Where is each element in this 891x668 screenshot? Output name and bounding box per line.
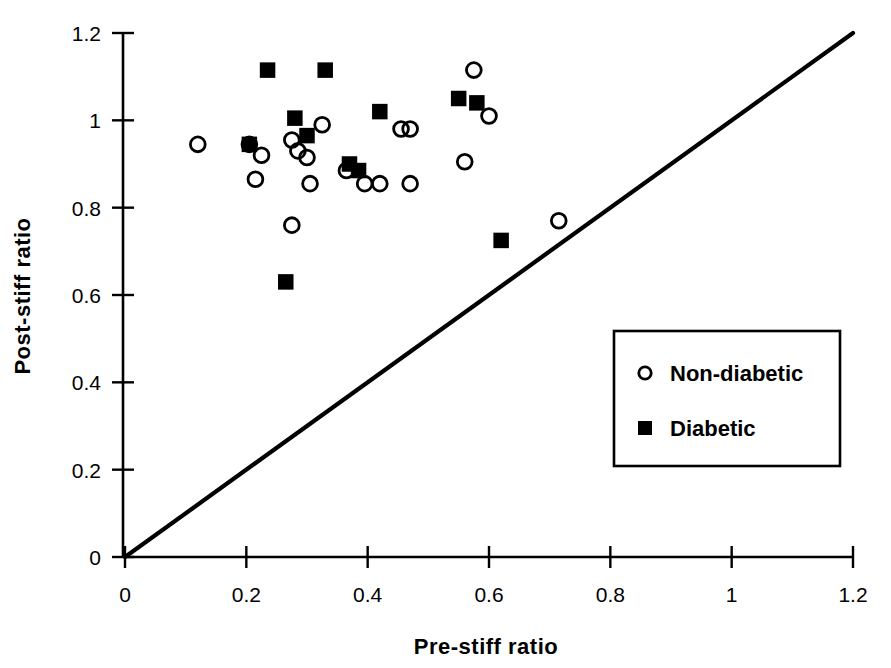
legend: Non-diabeticDiabetic bbox=[614, 331, 840, 466]
chart-page: 00.20.40.60.811.2 00.20.40.60.811.2 Pre-… bbox=[0, 0, 891, 668]
data-point-non-diabetic bbox=[403, 122, 418, 137]
x-tick-label: 1 bbox=[726, 583, 738, 606]
y-tick-label: 1 bbox=[89, 109, 101, 132]
y-axis-tick-labels: 00.20.40.60.811.2 bbox=[72, 22, 102, 569]
data-point-non-diabetic bbox=[403, 176, 418, 191]
data-point-non-diabetic bbox=[248, 172, 263, 187]
legend-label: Diabetic bbox=[670, 416, 756, 441]
data-point-diabetic bbox=[351, 163, 367, 179]
legend-box bbox=[614, 331, 840, 466]
data-point-non-diabetic bbox=[551, 213, 566, 228]
y-tick-label: 1.2 bbox=[72, 22, 101, 45]
legend-marker-diabetic bbox=[638, 421, 652, 435]
x-axis-title: Pre-stiff ratio bbox=[414, 634, 558, 659]
y-tick-label: 0 bbox=[89, 546, 101, 569]
data-point-diabetic bbox=[278, 274, 294, 290]
x-tick-label: 1.2 bbox=[838, 583, 867, 606]
line-of-identity bbox=[125, 33, 853, 557]
x-tick-label: 0.8 bbox=[596, 583, 625, 606]
data-point-non-diabetic bbox=[457, 154, 472, 169]
identity-line bbox=[125, 33, 853, 557]
data-point-diabetic bbox=[372, 104, 388, 120]
scatter-plot: 00.20.40.60.811.2 00.20.40.60.811.2 Pre-… bbox=[0, 0, 891, 668]
data-point-diabetic bbox=[287, 110, 303, 126]
data-point-diabetic bbox=[299, 128, 315, 144]
data-point-non-diabetic bbox=[372, 176, 387, 191]
data-point-non-diabetic bbox=[303, 176, 318, 191]
data-point-non-diabetic bbox=[315, 117, 330, 132]
data-point-non-diabetic bbox=[190, 137, 205, 152]
data-point-non-diabetic bbox=[357, 176, 372, 191]
data-point-non-diabetic bbox=[466, 63, 481, 78]
data-points bbox=[190, 62, 566, 289]
x-axis-tick-labels: 00.20.40.60.811.2 bbox=[119, 583, 867, 606]
y-axis-title: Post-stiff ratio bbox=[10, 217, 35, 374]
legend-label: Non-diabetic bbox=[670, 361, 803, 386]
data-point-diabetic bbox=[451, 91, 467, 107]
data-point-diabetic bbox=[469, 95, 485, 111]
y-tick-label: 0.4 bbox=[72, 371, 102, 394]
data-point-non-diabetic bbox=[482, 109, 497, 124]
x-tick-label: 0.6 bbox=[474, 583, 503, 606]
y-tick-label: 0.6 bbox=[72, 284, 101, 307]
y-tick-label: 0.8 bbox=[72, 197, 101, 220]
data-point-diabetic bbox=[242, 137, 258, 153]
x-tick-label: 0.4 bbox=[353, 583, 383, 606]
x-tick-label: 0 bbox=[119, 583, 131, 606]
y-tick-label: 0.2 bbox=[72, 459, 101, 482]
x-tick-label: 0.2 bbox=[232, 583, 261, 606]
data-point-diabetic bbox=[493, 233, 509, 249]
data-point-diabetic bbox=[317, 62, 333, 78]
data-point-diabetic bbox=[260, 62, 276, 78]
data-point-non-diabetic bbox=[284, 218, 299, 233]
